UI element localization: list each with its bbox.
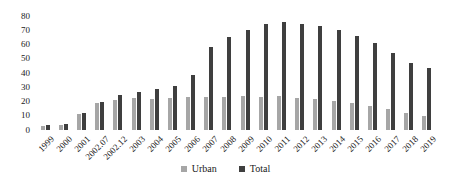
y-tick-label-50: 50 [4, 53, 30, 64]
bar-urban-2000 [59, 125, 63, 130]
x-tick-label-2003: 2003 [127, 134, 147, 154]
bar-total-2018 [409, 63, 413, 130]
legend-swatch-urban [181, 166, 187, 172]
x-tick-label-2013: 2013 [309, 134, 329, 154]
x-tick-label-2010: 2010 [255, 134, 275, 154]
bar-total-2002.07 [100, 102, 104, 130]
bar-urban-2008 [222, 97, 226, 130]
bar-total-2004 [155, 89, 159, 130]
legend-swatch-total [239, 166, 245, 172]
bar-urban-2007 [204, 97, 208, 130]
y-tick-label-80: 80 [4, 11, 30, 22]
bar-urban-2006 [186, 97, 190, 130]
x-tick-label-2019: 2019 [418, 134, 438, 154]
x-tick-label-2008: 2008 [218, 134, 238, 154]
x-tick-label-1999: 1999 [36, 134, 56, 154]
bar-total-2009 [246, 30, 250, 130]
bar-total-2007 [209, 47, 213, 130]
bar-urban-1999 [41, 126, 45, 130]
bar-total-2013 [318, 26, 322, 130]
y-tick-label-40: 40 [4, 68, 30, 79]
bar-total-2006 [191, 75, 195, 130]
bar-urban-2010 [259, 97, 263, 130]
x-tick-label-2014: 2014 [327, 134, 347, 154]
bar-urban-2017 [386, 109, 390, 130]
bar-total-2010 [264, 24, 268, 130]
bar-urban-2014 [332, 101, 336, 130]
bar-total-2000 [64, 124, 68, 130]
x-tick-label-2011: 2011 [273, 134, 293, 154]
bar-total-2017 [391, 53, 395, 130]
bar-urban-2002.12 [113, 100, 117, 130]
legend-item-total: Total [239, 163, 270, 174]
x-tick-label-2017: 2017 [382, 134, 402, 154]
bar-urban-2015 [350, 103, 354, 130]
x-tick-label-2005: 2005 [164, 134, 184, 154]
bar-urban-2019 [422, 116, 426, 130]
bar-total-2008 [227, 37, 231, 130]
bar-urban-2004 [150, 99, 154, 130]
x-tick-label-2015: 2015 [345, 134, 365, 154]
bar-urban-2005 [168, 98, 172, 130]
bar-total-2012 [300, 24, 304, 130]
bar-total-2014 [337, 30, 341, 130]
bar-urban-2012 [295, 98, 299, 130]
bar-total-2019 [427, 68, 431, 130]
x-tick-label-2007: 2007 [200, 134, 220, 154]
x-tick-label-2009: 2009 [236, 134, 256, 154]
x-tick-label-2006: 2006 [182, 134, 202, 154]
bar-urban-2003 [132, 98, 136, 130]
bar-total-2002.12 [118, 95, 122, 130]
bar-total-2001 [82, 113, 86, 130]
x-tick-label-2016: 2016 [364, 134, 384, 154]
y-tick-label-60: 60 [4, 39, 30, 50]
bar-total-1999 [46, 125, 50, 130]
x-tick-label-2004: 2004 [145, 134, 165, 154]
legend-label-total: Total [250, 163, 270, 174]
bar-total-2005 [173, 86, 177, 130]
legend-item-urban: Urban [181, 163, 217, 174]
y-tick-label-70: 70 [4, 25, 30, 36]
y-tick-label-30: 30 [4, 82, 30, 93]
bar-urban-2016 [368, 106, 372, 130]
legend: UrbanTotal [0, 163, 451, 174]
y-tick-label-10: 10 [4, 110, 30, 121]
bar-urban-2001 [77, 114, 81, 130]
bar-urban-2011 [277, 96, 281, 130]
bar-urban-2009 [241, 96, 245, 130]
bar-urban-2013 [313, 99, 317, 130]
bar-total-2015 [355, 36, 359, 130]
y-tick-label-0: 0 [4, 125, 30, 136]
bar-urban-2002.07 [95, 103, 99, 130]
bar-urban-2018 [404, 113, 408, 130]
x-tick-label-2012: 2012 [291, 134, 311, 154]
bar-total-2016 [373, 43, 377, 130]
bar-total-2003 [137, 92, 141, 130]
bar-total-2011 [282, 22, 286, 130]
legend-label-urban: Urban [192, 163, 217, 174]
x-tick-label-2018: 2018 [400, 134, 420, 154]
x-tick-label-2000: 2000 [55, 134, 75, 154]
bar-chart: 01020304050607080 1999200020012002.07200… [0, 0, 451, 186]
y-tick-label-20: 20 [4, 96, 30, 107]
